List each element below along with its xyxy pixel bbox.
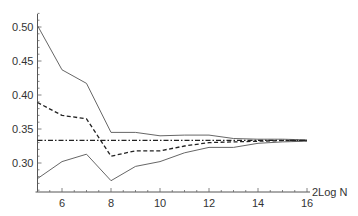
y-tick-label: 0.40 [12,89,33,101]
series-group [38,26,308,181]
x-tick-label: 10 [154,197,166,209]
x-tick-label: 8 [108,197,114,209]
y-tick-label: 0.45 [12,55,33,67]
y-tick-label: 0.35 [12,123,33,135]
axes: 68101214160.300.350.400.450.50 [12,13,313,209]
x-tick-label: 16 [301,197,313,209]
series-estimate [38,103,308,157]
y-tick-label: 0.30 [12,157,33,169]
line-chart: 68101214160.300.350.400.450.50 2Log N [0,0,358,216]
series-lower-bound [38,141,308,181]
x-tick-label: 14 [252,197,264,209]
series-upper-bound [38,26,308,140]
x-tick-label: 12 [203,197,215,209]
x-tick-label: 6 [59,197,65,209]
x-axis-label: 2Log N [312,186,348,198]
y-tick-label: 0.50 [12,21,33,33]
